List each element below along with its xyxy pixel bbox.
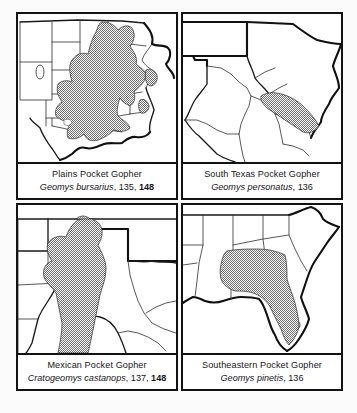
map-southeastern-pocket-gopher[interactable] <box>183 205 341 355</box>
page-ref-bold-mexican: 148 <box>151 373 166 383</box>
scientific-name-south-texas: Geomys personatus, 136 <box>211 181 313 193</box>
page-ref-southeastern: 136 <box>288 373 303 383</box>
latin-name-south-texas: Geomys personatus <box>211 182 292 192</box>
range-map-plate: Plains Pocket Gopher Geomys bursarius, 1… <box>16 12 343 393</box>
latin-name-plains: Geomys bursarius <box>40 182 114 192</box>
map-plains-pocket-gopher[interactable] <box>18 14 176 164</box>
map-svg-mexican <box>18 205 176 353</box>
common-name-south-texas: South Texas Pocket Gopher <box>204 169 320 181</box>
scientific-name-mexican: Cratogeomys castanops, 137, 148 <box>28 372 167 384</box>
panel-mexican-pocket-gopher[interactable]: Mexican Pocket Gopher Cratogeomys castan… <box>16 203 178 391</box>
caption-plains-pocket-gopher: Plains Pocket Gopher Geomys bursarius, 1… <box>18 164 176 198</box>
page-ref-mexican: 137, <box>131 373 149 383</box>
panel-south-texas-pocket-gopher[interactable]: South Texas Pocket Gopher Geomys persona… <box>181 12 343 200</box>
map-svg-southeastern <box>183 205 341 353</box>
map-svg-plains <box>18 14 176 162</box>
common-name-mexican: Mexican Pocket Gopher <box>47 360 146 372</box>
latin-name-southeastern: Geomys pinetis <box>221 373 284 383</box>
caption-mexican-pocket-gopher: Mexican Pocket Gopher Cratogeomys castan… <box>18 355 176 389</box>
page-ref-bold-plains: 148 <box>139 182 154 192</box>
map-svg-south-texas <box>183 14 341 162</box>
caption-south-texas-pocket-gopher: South Texas Pocket Gopher Geomys persona… <box>183 164 341 198</box>
map-mexican-pocket-gopher[interactable] <box>18 205 176 355</box>
panel-southeastern-pocket-gopher[interactable]: Southeastern Pocket Gopher Geomys pineti… <box>181 203 343 391</box>
caption-southeastern-pocket-gopher: Southeastern Pocket Gopher Geomys pineti… <box>183 355 341 389</box>
scientific-name-southeastern: Geomys pinetis, 136 <box>221 372 304 384</box>
panel-plains-pocket-gopher[interactable]: Plains Pocket Gopher Geomys bursarius, 1… <box>16 12 178 200</box>
map-south-texas-pocket-gopher[interactable] <box>183 14 341 164</box>
common-name-southeastern: Southeastern Pocket Gopher <box>202 360 322 372</box>
scientific-name-plains: Geomys bursarius, 135, 148 <box>40 181 154 193</box>
common-name-plains: Plains Pocket Gopher <box>52 169 142 181</box>
page-ref-plains: 135, <box>119 182 137 192</box>
page-ref-south-texas: 136 <box>298 182 313 192</box>
latin-name-mexican: Cratogeomys castanops <box>28 373 126 383</box>
